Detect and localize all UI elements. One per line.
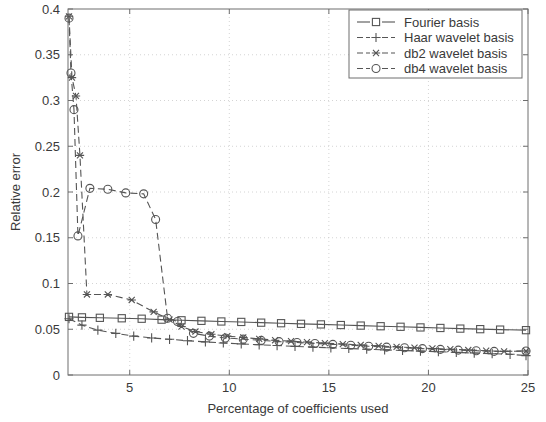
marker-circle bbox=[104, 185, 112, 193]
marker-plus bbox=[147, 333, 156, 342]
legend-label: Fourier basis bbox=[404, 15, 480, 30]
marker-plus bbox=[219, 338, 228, 347]
series-fourier-basis bbox=[65, 313, 529, 333]
x-tick-label: 15 bbox=[322, 380, 336, 395]
y-tick-label: 0 bbox=[53, 368, 60, 383]
marker-asterisk bbox=[287, 338, 295, 344]
marker-plus bbox=[201, 337, 210, 346]
chart-figure: 00.050.10.150.20.250.30.350.4510152025 P… bbox=[0, 0, 546, 422]
marker-asterisk bbox=[104, 291, 112, 297]
legend-label: Haar wavelet basis bbox=[404, 30, 514, 45]
marker-plus bbox=[111, 329, 120, 338]
marker-plus bbox=[93, 326, 102, 335]
y-tick-label: 0.1 bbox=[42, 276, 60, 291]
y-tick-label: 0.25 bbox=[35, 139, 60, 154]
y-tick-label: 0.15 bbox=[35, 230, 60, 245]
marker-plus bbox=[165, 335, 174, 344]
legend-label: db4 wavelet basis bbox=[404, 61, 508, 76]
y-tick-label: 0.35 bbox=[35, 47, 60, 62]
legend-label: db2 wavelet basis bbox=[404, 46, 508, 61]
marker-asterisk bbox=[321, 340, 329, 346]
marker-plus bbox=[183, 336, 192, 345]
marker-asterisk bbox=[128, 297, 136, 303]
marker-asterisk bbox=[374, 343, 382, 349]
marker-asterisk bbox=[446, 346, 454, 352]
x-tick-label: 20 bbox=[421, 380, 435, 395]
x-tick-label: 25 bbox=[521, 380, 535, 395]
marker-asterisk bbox=[303, 339, 311, 345]
marker-asterisk bbox=[339, 341, 347, 347]
y-tick-label: 0.05 bbox=[35, 322, 60, 337]
marker-plus bbox=[129, 332, 138, 341]
y-tick-label: 0.3 bbox=[42, 93, 60, 108]
relative-error-line-chart: 00.050.10.150.20.250.30.350.4510152025 P… bbox=[0, 0, 546, 422]
marker-plus bbox=[77, 321, 86, 330]
x-tick-label: 10 bbox=[222, 380, 236, 395]
y-tick-label: 0.4 bbox=[42, 2, 60, 17]
x-axis-title: Percentage of coefficients used bbox=[207, 401, 388, 416]
chart-legend: Fourier basisHaar wavelet basisdb2 wavel… bbox=[349, 10, 522, 78]
marker-plus bbox=[237, 339, 246, 348]
marker-asterisk bbox=[392, 344, 400, 350]
y-axis-title: Relative error bbox=[8, 152, 23, 231]
x-tick-label: 5 bbox=[126, 380, 133, 395]
y-tick-label: 0.2 bbox=[42, 185, 60, 200]
axis-titles: Percentage of coefficients usedRelative … bbox=[8, 152, 389, 416]
marker-asterisk bbox=[357, 342, 365, 348]
